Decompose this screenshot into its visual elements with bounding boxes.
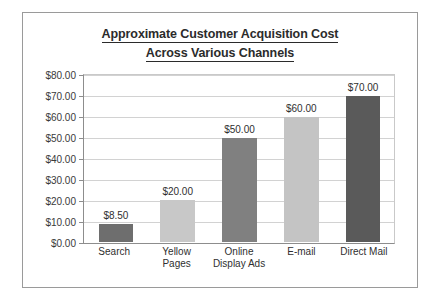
bar-value-label: $20.00 <box>162 186 193 197</box>
bar-slot: $50.00 <box>209 75 271 242</box>
bar[interactable]: $60.00 <box>284 117 319 242</box>
category-label-line: Search <box>83 246 145 258</box>
x-axis-category-labels: SearchYellowPagesOnlineDisplay AdsE-mail… <box>83 246 395 270</box>
chart-title-line-2: Across Various Channels <box>146 45 294 62</box>
category-label-line: Display Ads <box>208 258 270 270</box>
x-axis-category-label: E-mail <box>270 246 332 270</box>
y-axis-label: $70.00 <box>45 91 76 102</box>
y-axis-label: $30.00 <box>45 175 76 186</box>
x-axis-category-label: Direct Mail <box>333 246 395 270</box>
y-axis-label: $80.00 <box>45 70 76 81</box>
y-axis-tick <box>79 243 84 244</box>
chart-frame: Approximate Customer Acquisition Cost Ac… <box>22 12 418 288</box>
category-label-line: E-mail <box>270 246 332 258</box>
category-label-line: Direct Mail <box>333 246 395 258</box>
bar-slot: $70.00 <box>332 75 394 242</box>
y-axis-label: $20.00 <box>45 196 76 207</box>
bar-series: $8.50$20.00$50.00$60.00$70.00 <box>85 75 394 242</box>
bar-slot: $20.00 <box>147 75 209 242</box>
y-axis-tick <box>79 117 84 118</box>
x-axis-category-label: YellowPages <box>145 246 207 270</box>
y-axis-label: $40.00 <box>45 154 76 165</box>
category-label-line: Pages <box>145 258 207 270</box>
y-axis-tick <box>79 75 84 76</box>
category-label-line: Online <box>208 246 270 258</box>
category-label-line: Yellow <box>145 246 207 258</box>
bar[interactable]: $20.00 <box>160 200 195 242</box>
bar-value-label: $60.00 <box>286 103 317 114</box>
chart-title: Approximate Customer Acquisition Cost Ac… <box>23 26 417 62</box>
y-axis-tick <box>79 138 84 139</box>
x-axis-category-label: OnlineDisplay Ads <box>208 246 270 270</box>
bar-value-label: $50.00 <box>224 124 255 135</box>
bar-slot: $8.50 <box>85 75 147 242</box>
y-axis-label: $60.00 <box>45 112 76 123</box>
y-axis-tick <box>79 222 84 223</box>
plot-area: $80.00$70.00$60.00$50.00$40.00$30.00$20.… <box>83 74 395 244</box>
y-axis-label: $0.00 <box>51 238 76 249</box>
y-axis-tick <box>79 159 84 160</box>
y-axis-tick <box>79 201 84 202</box>
bar-slot: $60.00 <box>270 75 332 242</box>
chart-title-line-1: Approximate Customer Acquisition Cost <box>102 26 339 43</box>
y-axis-label: $50.00 <box>45 133 76 144</box>
y-axis-tick <box>79 96 84 97</box>
y-axis-tick <box>79 180 84 181</box>
bar[interactable]: $70.00 <box>346 96 381 242</box>
bar-value-label: $70.00 <box>348 82 379 93</box>
bar-value-label: $8.50 <box>103 210 128 221</box>
y-axis-label: $10.00 <box>45 217 76 228</box>
bar[interactable]: $50.00 <box>222 138 257 242</box>
x-axis-category-label: Search <box>83 246 145 270</box>
bar[interactable]: $8.50 <box>99 224 134 242</box>
